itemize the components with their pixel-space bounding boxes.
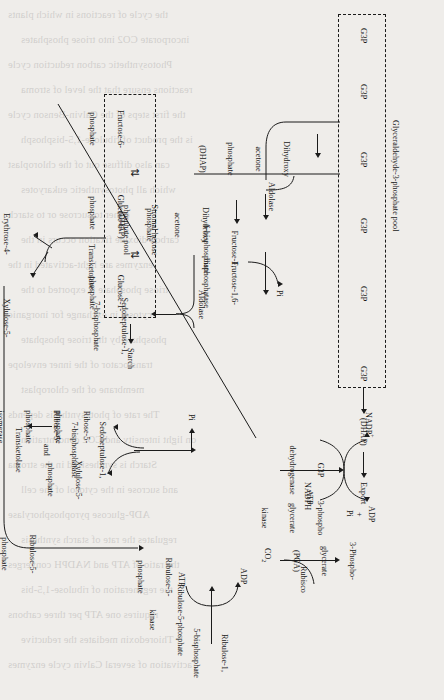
metabolite-sedoheptulose-1-7-bisphosphate: Sedoheptulose-1, 7-bisphosphate bbox=[73, 274, 148, 378]
ru5pe-l1: Ribulose-5- bbox=[28, 518, 37, 590]
rubp-l1: Ribulose-1, bbox=[220, 612, 229, 694]
r5p-isomerase-head bbox=[27, 423, 32, 429]
metabolite-erythrose-4-phosphate: Erythrose-4- phosphate bbox=[0, 196, 30, 272]
metabolite-fructose-6-phosphate: Fructose-6- phosphate bbox=[69, 98, 144, 160]
dhap-upper-l2: acetone bbox=[254, 122, 263, 196]
calvin-cycle-diagram: Glyceraldehyde-3-phosphate pool G3P G3P … bbox=[0, 0, 444, 700]
rubp-l2: 5-bisphosphate bbox=[192, 612, 201, 694]
pgk-l1: 3-phospho bbox=[316, 486, 325, 550]
sbp-l2: 7-bisphosphate bbox=[92, 274, 101, 378]
arrow-dhap-to-export-head bbox=[361, 473, 367, 478]
cofactor-pi: Pi bbox=[345, 510, 354, 517]
r5pi-l3: isomerase bbox=[0, 394, 5, 460]
arrow-to-fbp-line bbox=[265, 194, 266, 216]
sbp-l1: Sedoheptulose-1, bbox=[120, 274, 129, 378]
g6p-l2: phosphate bbox=[88, 182, 97, 244]
diagram-page: the cycle of reactions in which plantsin… bbox=[0, 0, 444, 700]
g3p-node-4: G3P bbox=[359, 218, 368, 233]
arrow-ru5p-to-rubp-head bbox=[209, 586, 215, 591]
pi-release-label: Pi bbox=[275, 290, 284, 297]
xu5p-up-l1: Xylulose-5- bbox=[2, 282, 11, 354]
ru5pk-l2: kinase bbox=[148, 560, 157, 680]
diagram-connectors bbox=[0, 0, 444, 700]
arrow-fbpase-head bbox=[263, 290, 269, 295]
cofactor-plus-sign: + bbox=[355, 512, 364, 517]
arrow-pi-release-head bbox=[278, 281, 283, 287]
ru5pe-l2: phosphate bbox=[0, 518, 9, 590]
arrow-aldolase2-line bbox=[154, 314, 176, 315]
arrow-to-xu5p2-head bbox=[107, 470, 112, 476]
enzyme-3-phosphoglycerate-kinase: 3-phospho glycerate kinase bbox=[241, 486, 344, 550]
metabolite-glucose-6-phosphate: Glucose-6- phosphate bbox=[69, 182, 144, 244]
cofactor-atp-2: ATP bbox=[177, 572, 186, 587]
pgk-l2: glycerate bbox=[288, 486, 297, 550]
dhap-upper-l1: Dihydroxy bbox=[282, 122, 291, 196]
arrow-to-xu5p-head bbox=[30, 273, 36, 278]
cofactor-adp-2: ADP bbox=[239, 568, 248, 584]
g6p-l1: Glucose-6- bbox=[116, 182, 125, 244]
equilibrium-arrow-f6p-g6p: ⇅ bbox=[128, 168, 141, 177]
sbpase-stem bbox=[134, 450, 192, 451]
arrow-to-r5p-head bbox=[113, 424, 118, 430]
arrow-g3p3-to-dhap-head bbox=[315, 153, 321, 158]
g3p-node-3: G3P bbox=[359, 152, 368, 167]
pi-sbpase-line bbox=[191, 432, 192, 450]
g3p-node-2: G3P bbox=[359, 84, 368, 99]
enzyme-ribose-5-phosphate-isomerase: Ribose-5- phosphate isomerase bbox=[0, 394, 80, 460]
g3p-node-6: G3P bbox=[359, 366, 368, 381]
g3p-node-5: G3P bbox=[359, 286, 368, 301]
r5p-isomerase-line bbox=[30, 426, 52, 427]
equilibrium-arrow-g6p-g1p: ⇅ bbox=[128, 250, 141, 259]
arrow-fbpase-line bbox=[265, 252, 266, 292]
arrow-to-e4p-head bbox=[33, 232, 38, 238]
dhap-upper-l4: (DHAP) bbox=[197, 122, 206, 196]
pi-sbpase-head bbox=[189, 428, 195, 433]
metabolite-xylulose-5-phosphate-upper: Xylulose-5- phosphate bbox=[0, 282, 30, 354]
g3p-node-1: G3P bbox=[359, 28, 368, 43]
arrow-dhap-to-export-line bbox=[363, 452, 364, 474]
pgk-l3: kinase bbox=[259, 486, 268, 550]
fbpase-l1: Fructose-1,6- bbox=[230, 240, 239, 326]
enzyme-fructose-1-6-bisphosphatase: Fructose-1,6- bisphosphatase bbox=[183, 240, 258, 326]
pga-l1: 3-Phospho- bbox=[348, 522, 357, 600]
arrow-aldolase2-head bbox=[151, 311, 156, 317]
arrow-g3p-to-dhap-line bbox=[363, 388, 364, 410]
g3p-pool-label: Glyceraldehyde-3-phosphate pool bbox=[391, 120, 400, 231]
arrow-nadp-head bbox=[364, 432, 370, 437]
arrow-adp-head bbox=[364, 497, 370, 502]
pi-sbpase-label: Pi bbox=[187, 414, 196, 421]
dhap-upper-l3: phosphate bbox=[225, 122, 234, 196]
arrow-to-fbp-head bbox=[263, 215, 269, 220]
e4p-l1: Erythrose-4- bbox=[2, 196, 11, 272]
enzyme-aldolase-2: Aldolase bbox=[197, 290, 206, 319]
metabolite-ribulose-1-5-bisphosphate: Ribulose-1, 5-bisphosphate bbox=[173, 612, 248, 694]
f6p-l2: phosphate bbox=[88, 98, 97, 160]
arrow-g3p3-to-dhap-line bbox=[317, 134, 318, 154]
hexose-pool-l1: Stromal hexose bbox=[150, 170, 159, 290]
enzyme-ribulose-5-phosphate-epimerase: Ribulose-5- phosphate epimerase bbox=[0, 518, 56, 590]
co2-subscript: 2 bbox=[261, 559, 268, 562]
dhap-upper-label: Dihydroxy acetone phosphate (DHAP) bbox=[178, 122, 310, 196]
r5pi-l1: Ribose-5- bbox=[52, 394, 61, 460]
f6p-l1: Fructose-6- bbox=[116, 98, 125, 160]
metabolite-co2: CO2 bbox=[260, 548, 272, 563]
enzyme-aldolase-1: Aldolase bbox=[267, 182, 276, 211]
cofactor-adp: ADP bbox=[367, 506, 376, 522]
